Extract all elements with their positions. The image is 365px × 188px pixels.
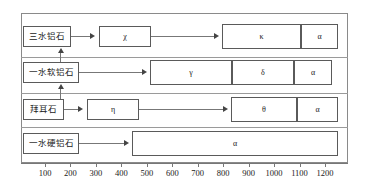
mineral-label-diaspore: 一水硬铝石 bbox=[29, 139, 74, 148]
connector-eta-to-theta bbox=[139, 109, 224, 110]
connector-gibbsite-to-chi bbox=[71, 36, 91, 37]
phase-label-diaspore-alpha: α bbox=[233, 140, 237, 148]
connector-bayerite-to-eta bbox=[64, 109, 79, 110]
axis-tick bbox=[274, 163, 275, 167]
phase-label-gibbsite-alpha: α bbox=[317, 33, 321, 41]
row-divider-1 bbox=[21, 57, 348, 58]
mineral-label-boehmite: 一水软铝石 bbox=[29, 68, 74, 77]
axis-tick-label: 800 bbox=[217, 169, 230, 178]
phase-box-bayerite-alpha[interactable]: α bbox=[297, 97, 338, 122]
axis-tick-label: 200 bbox=[64, 169, 77, 178]
phase-box-gibbsite-chi[interactable]: χ bbox=[99, 26, 151, 47]
axis-tick bbox=[300, 163, 301, 167]
axis-tick bbox=[70, 163, 71, 167]
mineral-label-bayerite: 拜耳石 bbox=[30, 105, 57, 114]
mineral-box-bayerite[interactable]: 拜耳石 bbox=[23, 99, 64, 120]
axis-tick bbox=[325, 163, 326, 167]
row-divider-3 bbox=[21, 127, 348, 128]
axis-tick-label: 600 bbox=[166, 169, 179, 178]
phase-label-boehmite-delta: δ bbox=[261, 69, 265, 77]
arrow-diaspore-to-alpha-icon bbox=[124, 140, 129, 146]
axis-tick-label: 1100 bbox=[291, 169, 308, 178]
axis-tick-label: 100 bbox=[39, 169, 52, 178]
axis-tick bbox=[198, 163, 199, 167]
arrow-bayerite-to-eta-icon bbox=[78, 106, 83, 112]
axis-tick bbox=[121, 163, 122, 167]
phase-box-bayerite-theta[interactable]: θ bbox=[231, 97, 297, 122]
row-divider-2 bbox=[21, 93, 348, 94]
phase-box-gibbsite-alpha[interactable]: α bbox=[301, 24, 338, 49]
phase-label-gibbsite-chi: χ bbox=[123, 33, 127, 41]
axis-tick-label: 400 bbox=[115, 169, 128, 178]
axis-tick-label: 300 bbox=[90, 169, 103, 178]
phase-label-bayerite-alpha: α bbox=[315, 106, 319, 114]
axis-tick bbox=[147, 163, 148, 167]
connector-diaspore-to-alpha bbox=[79, 143, 125, 144]
phase-label-boehmite-alpha: α bbox=[311, 69, 315, 77]
axis-tick bbox=[96, 163, 97, 167]
phase-label-boehmite-gamma: γ bbox=[189, 69, 193, 77]
axis-tick bbox=[249, 163, 250, 167]
mineral-box-boehmite[interactable]: 一水软铝石 bbox=[23, 62, 79, 83]
axis-tick-label: 500 bbox=[140, 169, 153, 178]
connector-boehmite-to-gibbsite bbox=[60, 52, 61, 62]
axis-tick bbox=[172, 163, 173, 167]
arrow-gibbsite-to-chi-icon bbox=[90, 33, 95, 39]
phase-box-bayerite-eta[interactable]: η bbox=[87, 99, 139, 120]
axis-tick bbox=[223, 163, 224, 167]
connector-bayerite-to-boehmite bbox=[60, 88, 61, 99]
mineral-box-diaspore[interactable]: 一水硬铝石 bbox=[23, 133, 79, 154]
mineral-box-gibbsite[interactable]: 三水铝石 bbox=[23, 26, 71, 47]
phase-box-boehmite-delta[interactable]: δ bbox=[232, 60, 294, 85]
axis-tick-label: 1200 bbox=[317, 169, 334, 178]
connector-boehmite-to-gamma bbox=[79, 72, 143, 73]
arrow-eta-to-theta-icon bbox=[223, 106, 228, 112]
axis-tick-label: 700 bbox=[191, 169, 204, 178]
phase-label-bayerite-theta: θ bbox=[262, 106, 266, 114]
phase-transformation-diagram: 三水铝石 χ κ α 一水软铝石 γ δ α 拜耳石 η θ bbox=[0, 0, 365, 188]
phase-box-diaspore-alpha[interactable]: α bbox=[132, 131, 338, 156]
axis-tick-label: 900 bbox=[242, 169, 255, 178]
phase-box-boehmite-gamma[interactable]: γ bbox=[150, 60, 232, 85]
arrow-bayerite-to-boehmite-icon bbox=[58, 84, 64, 89]
connector-chi-to-kappa bbox=[151, 36, 215, 37]
axis-tick-label: 1000 bbox=[266, 169, 283, 178]
phase-label-bayerite-eta: η bbox=[111, 106, 115, 114]
axis-tick bbox=[45, 163, 46, 167]
phase-box-boehmite-alpha[interactable]: α bbox=[294, 60, 332, 85]
mineral-label-gibbsite: 三水铝石 bbox=[29, 32, 65, 41]
phase-box-gibbsite-kappa[interactable]: κ bbox=[222, 24, 301, 49]
arrow-boehmite-to-gamma-icon bbox=[142, 69, 147, 75]
arrow-chi-to-kappa-icon bbox=[214, 33, 219, 39]
phase-label-gibbsite-kappa: κ bbox=[259, 33, 263, 41]
arrow-boehmite-to-gibbsite-icon bbox=[58, 48, 64, 53]
